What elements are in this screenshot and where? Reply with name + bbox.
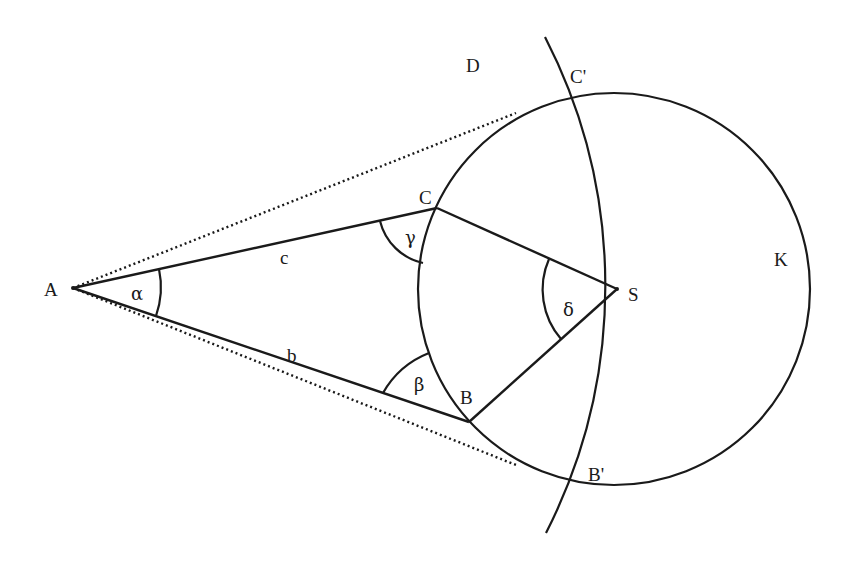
vertex-a-dot xyxy=(71,286,75,290)
label-point-b-prime: B' xyxy=(588,464,604,485)
circle-k xyxy=(418,93,810,485)
segment-cs-line xyxy=(437,208,617,289)
label-point-c-prime: C' xyxy=(570,66,586,87)
tangent-line-upper xyxy=(73,113,516,288)
label-region-d: D xyxy=(466,55,480,76)
side-c-line xyxy=(73,208,437,288)
segment-bs-line xyxy=(469,289,617,422)
label-angle-delta: δ xyxy=(563,299,574,320)
angle-gamma-arc xyxy=(380,221,423,263)
geometry-diagram: A C B S C' B' D K c b α γ β δ xyxy=(0,0,847,563)
vertex-s-dot xyxy=(615,287,619,291)
label-point-b: B xyxy=(460,387,473,408)
angle-alpha-arc xyxy=(156,269,161,316)
label-point-c: C xyxy=(419,187,432,208)
arc-through-s xyxy=(545,37,605,533)
label-angle-gamma: γ xyxy=(405,227,416,248)
side-b-line xyxy=(73,288,469,422)
label-side-c: c xyxy=(280,247,288,268)
label-side-b: b xyxy=(287,345,297,366)
tangent-line-lower xyxy=(73,288,516,465)
label-point-a: A xyxy=(44,279,58,300)
label-angle-beta: β xyxy=(414,374,424,395)
label-angle-alpha: α xyxy=(131,283,143,304)
diagram-svg: A C B S C' B' D K c b α γ β δ xyxy=(0,0,847,563)
label-point-s: S xyxy=(628,284,639,305)
angle-delta-arc xyxy=(543,259,561,339)
label-circle-k: K xyxy=(774,249,788,270)
